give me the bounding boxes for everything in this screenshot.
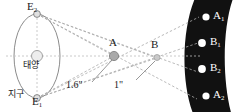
label-star-b: B — [151, 39, 158, 50]
label-sky-point-b2: B2 — [210, 62, 221, 74]
label-sky-point-b1: B1 — [210, 36, 221, 48]
label-earth-position-e1: E1 — [32, 96, 42, 108]
sky-point-a1 — [202, 13, 209, 20]
label-sun: 태양 — [23, 61, 39, 70]
angle-a-leader — [92, 60, 112, 82]
sky-point-a2 — [202, 92, 209, 99]
star-marker-a — [109, 51, 118, 60]
parallax-diagram-figure: E2 E1 태양 지구 A B 1.6" 1" A1 B1 B2 A2 — [0, 0, 238, 112]
label-earth-position-e2: E2 — [27, 1, 37, 13]
sky-point-b2 — [198, 65, 206, 73]
label-star-a: A — [109, 37, 117, 48]
sightline-e2-to-sky-b2 — [37, 14, 198, 72]
sky-point-b1 — [198, 39, 206, 47]
label-sky-point-a2: A2 — [213, 89, 224, 101]
label-angle-a: 1.6" — [66, 80, 83, 90]
star-marker-b — [154, 55, 160, 61]
label-sky-point-a1: A1 — [213, 10, 224, 22]
label-earth: 지구 — [8, 90, 24, 99]
label-angle-b: 1" — [114, 80, 123, 90]
angle-b-leader — [136, 61, 155, 80]
